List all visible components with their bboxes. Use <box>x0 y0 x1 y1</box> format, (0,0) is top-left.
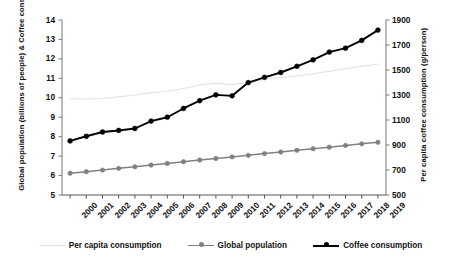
series-marker-2 <box>68 139 73 144</box>
series-marker-1 <box>279 150 283 154</box>
series-marker-2 <box>100 130 105 135</box>
legend-label: Global population <box>218 241 288 250</box>
right-axis-tick-label: 1700 <box>392 40 426 50</box>
series-marker-2 <box>246 80 251 85</box>
right-axis-tick-label: 700 <box>392 165 426 175</box>
series-marker-1 <box>246 153 250 157</box>
right-axis-tick-label: 1900 <box>392 15 426 25</box>
series-marker-2 <box>327 50 332 55</box>
series-marker-2 <box>197 98 202 103</box>
series-line-0 <box>70 64 378 99</box>
legend-swatch-icon <box>313 241 339 250</box>
legend-label: Coffee consumption <box>343 241 422 250</box>
left-axis-tick-label: 14 <box>22 15 55 25</box>
right-axis-tick-label: 500 <box>392 190 426 200</box>
series-marker-1 <box>230 155 234 159</box>
series-marker-1 <box>360 142 364 146</box>
left-axis-tick-label: 9 <box>22 112 55 122</box>
series-marker-2 <box>262 75 267 80</box>
series-marker-1 <box>133 165 137 169</box>
legend-swatch-icon <box>39 241 65 250</box>
legend-swatch-icon <box>188 241 214 250</box>
series-marker-1 <box>262 151 266 155</box>
series-marker-1 <box>295 148 299 152</box>
series-marker-2 <box>116 128 121 133</box>
series-marker-2 <box>376 28 381 33</box>
series-marker-2 <box>278 70 283 75</box>
series-marker-1 <box>149 163 153 167</box>
legend-item-0[interactable]: Per capita consumption <box>39 241 162 250</box>
series-marker-1 <box>327 145 331 149</box>
series-marker-2 <box>311 57 316 62</box>
legend-label: Per capita consumption <box>69 241 162 250</box>
series-marker-2 <box>214 92 219 97</box>
series-marker-2 <box>181 106 186 111</box>
series-marker-1 <box>343 143 347 147</box>
series-marker-1 <box>84 169 88 173</box>
series-marker-2 <box>149 119 154 124</box>
coffee-consumption-chart: Global population (billions of people) &… <box>0 0 461 261</box>
series-marker-2 <box>133 126 138 131</box>
left-axis-tick-label: 11 <box>22 73 55 83</box>
left-axis-tick-label: 7 <box>22 151 55 161</box>
legend-item-2[interactable]: Coffee consumption <box>313 241 422 250</box>
series-marker-2 <box>343 46 348 51</box>
left-axis-tick-label: 13 <box>22 34 55 44</box>
left-axis-tick-label: 5 <box>22 190 55 200</box>
left-axis-tick-label: 8 <box>22 131 55 141</box>
legend-item-1[interactable]: Global population <box>188 241 288 250</box>
series-marker-2 <box>230 93 235 98</box>
left-axis-tick-label: 6 <box>22 170 55 180</box>
series-marker-1 <box>181 160 185 164</box>
series-marker-1 <box>311 147 315 151</box>
chart-legend: Per capita consumptionGlobal populationC… <box>0 236 461 254</box>
series-marker-1 <box>214 156 218 160</box>
series-marker-1 <box>100 168 104 172</box>
series-marker-2 <box>295 64 300 69</box>
series-marker-1 <box>117 166 121 170</box>
right-axis-tick-label: 1100 <box>392 115 426 125</box>
left-axis-tick-label: 12 <box>22 53 55 63</box>
series-marker-1 <box>376 140 380 144</box>
right-axis-tick-label: 1300 <box>392 90 426 100</box>
series-marker-1 <box>165 161 169 165</box>
series-marker-2 <box>359 38 364 43</box>
right-axis-tick-label: 1500 <box>392 65 426 75</box>
left-axis-tick-label: 10 <box>22 92 55 102</box>
series-marker-2 <box>165 115 170 120</box>
right-axis-tick-label: 900 <box>392 140 426 150</box>
series-line-2 <box>70 30 378 141</box>
series-marker-1 <box>68 171 72 175</box>
series-marker-2 <box>84 134 89 139</box>
series-marker-1 <box>198 158 202 162</box>
